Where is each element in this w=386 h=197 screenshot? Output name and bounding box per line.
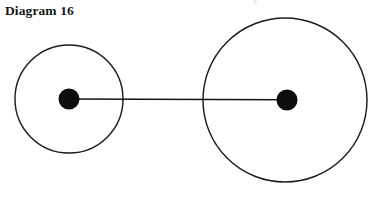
diagram-page: Diagram 16 xyxy=(0,0,386,197)
center-connector-line xyxy=(69,99,287,100)
small-circle-center-dot xyxy=(59,89,80,110)
background-speck xyxy=(253,0,257,4)
large-circle-center-dot xyxy=(277,90,298,111)
diagram-figure xyxy=(0,0,386,197)
